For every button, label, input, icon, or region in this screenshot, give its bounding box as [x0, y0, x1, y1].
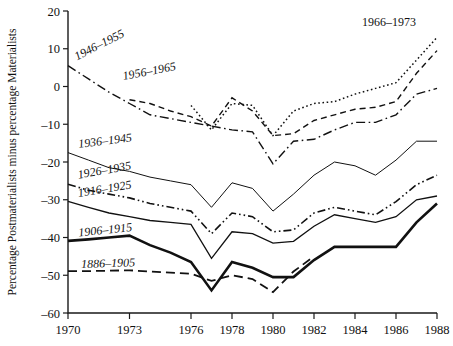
series-line-1936-1945: [68, 141, 437, 211]
y-axis-tick-label: –40: [40, 231, 60, 245]
y-axis-tick-label: –10: [40, 118, 60, 132]
y-axis-tick-label: 20: [48, 5, 61, 19]
y-axis-tick-label: 10: [48, 42, 61, 56]
y-axis-tick-label: 0: [54, 80, 60, 94]
x-axis-tick-label: 1973: [117, 323, 142, 337]
x-axis-tick-label: 1980: [261, 323, 286, 337]
y-axis-tick-label: –50: [40, 269, 60, 283]
x-axis-tick-label: 1982: [302, 323, 327, 337]
series-label-group-1946-1955: 1946–1955: [72, 26, 126, 63]
series-label-group-1966-1973: 1966–1973: [362, 15, 416, 29]
chart-container: 20100–10–20–30–40–50–6019701973197619781…: [0, 0, 453, 346]
series-label-1946-1955: 1946–1955: [72, 26, 126, 63]
series-label-1936-1945: 1936–1945: [77, 130, 132, 150]
x-axis-tick-label: 1986: [384, 323, 409, 337]
series-label-1966-1973: 1966–1973: [362, 15, 416, 29]
x-axis-tick-label: 1978: [220, 323, 245, 337]
x-axis-tick-label: 1984: [343, 323, 369, 337]
series-label-group-1956-1965: 1956–1965: [121, 59, 177, 83]
x-axis-tick-label: 1976: [179, 323, 204, 337]
x-axis-tick-label: 1988: [425, 323, 450, 337]
y-axis-tick-label: –20: [40, 156, 60, 170]
y-axis-tick-label: –30: [40, 193, 60, 207]
x-axis-tick-label: 1970: [56, 323, 81, 337]
series-label-1956-1965: 1956–1965: [121, 59, 177, 83]
series-label-1886-1905: 1886–1905: [81, 255, 135, 271]
line-chart: 20100–10–20–30–40–50–6019701973197619781…: [0, 0, 453, 346]
y-axis-tick-label: –60: [40, 307, 60, 321]
series-label-group-1886-1905: 1886–1905: [81, 255, 135, 271]
series-label-group-1936-1945: 1936–1945: [77, 130, 132, 150]
y-axis-title: Percentage Postmaterialists minus percen…: [6, 28, 19, 296]
